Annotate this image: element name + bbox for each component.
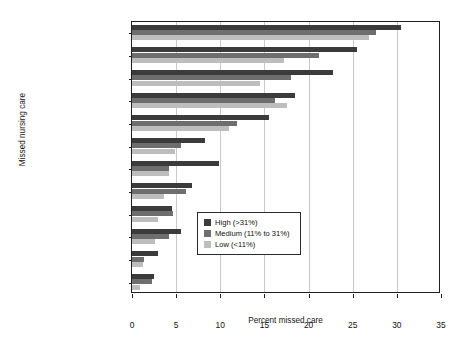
legend-label: High (>31%) [215,217,257,228]
bar-medium [132,189,186,194]
y-axis-tick [129,192,132,193]
legend-label: Low (<11%) [215,239,255,250]
legend-item: High (>31%) [204,217,295,228]
bar-medium [132,143,181,148]
x-axis-tick [132,294,133,298]
y-axis-tick [129,215,132,216]
bar-medium [132,257,144,262]
chart-legend: High (>31%)Medium (11% to 31%)Low (<11%) [197,212,301,255]
y-axis-tick [129,237,132,238]
cropped-caption-text [150,0,450,8]
legend-item: Medium (11% to 31%) [204,228,295,239]
bar-group-row: Documentation [132,113,439,136]
bar-group-row: Care plan [132,22,439,45]
bar-high [132,161,219,166]
bar-group-row: Comfort/talk [132,67,439,90]
bar-group-row: Meds on time [132,158,439,181]
bar-chart-figure: Missed nursing care 05101520253035Care p… [0,0,463,340]
bar-medium [132,53,319,58]
bar-high [132,115,269,120]
bar-high [132,25,401,30]
y-axis-tick [129,101,132,102]
y-axis-tick [129,283,132,284]
bar-medium [132,75,291,80]
bar-high [132,274,154,279]
bar-high [132,229,181,234]
y-axis-tick [129,79,132,80]
bar-high [132,251,158,256]
legend-swatch-icon [204,230,211,237]
bar-group-row: Teach/counsel [132,45,439,68]
bar-medium [132,211,173,216]
bar-medium [132,166,169,171]
bar-low [132,262,143,267]
bar-medium [132,121,237,126]
bar-low [132,217,158,222]
bar-group-row: Surveillance [132,135,439,158]
x-axis-tick [397,294,398,298]
bar-low [132,194,164,199]
bar-low [132,58,284,63]
bar-group-row: Care coordination [132,181,439,204]
y-axis-tick [129,33,132,34]
bar-medium [132,234,169,239]
x-axis-tick [309,294,310,298]
x-axis-tick [220,294,221,298]
bar-low [132,149,175,154]
y-axis-title: Missed nursing care [18,75,27,185]
bar-medium [132,279,152,284]
y-axis-tick [129,169,132,170]
bar-low [132,103,287,108]
x-axis-title: Percent missed care [131,316,440,325]
bar-group-row: Pain management [132,271,439,294]
bar-high [132,47,357,52]
bar-low [132,171,169,176]
bar-medium [132,98,275,103]
y-axis-tick [129,260,132,261]
y-axis-tick [129,56,132,57]
legend-label: Medium (11% to 31%) [215,228,290,239]
x-axis-tick [353,294,354,298]
bar-high [132,183,192,188]
bar-low [132,126,229,131]
bar-medium [132,30,376,35]
bar-low [132,239,155,244]
bar-low [132,81,260,86]
y-axis-tick [129,124,132,125]
legend-item: Low (<11%) [204,239,295,250]
bar-high [132,70,333,75]
y-axis-tick [129,147,132,148]
x-axis-tick [176,294,177,298]
x-axis-tick [441,294,442,298]
bar-low [132,285,140,290]
bar-high [132,138,205,143]
bar-low [132,35,369,40]
x-axis-tick [264,294,265,298]
legend-swatch-icon [204,241,211,248]
legend-swatch-icon [204,219,211,226]
bar-high [132,206,172,211]
bar-group-row: Discharge prep [132,90,439,113]
bar-high [132,93,295,98]
